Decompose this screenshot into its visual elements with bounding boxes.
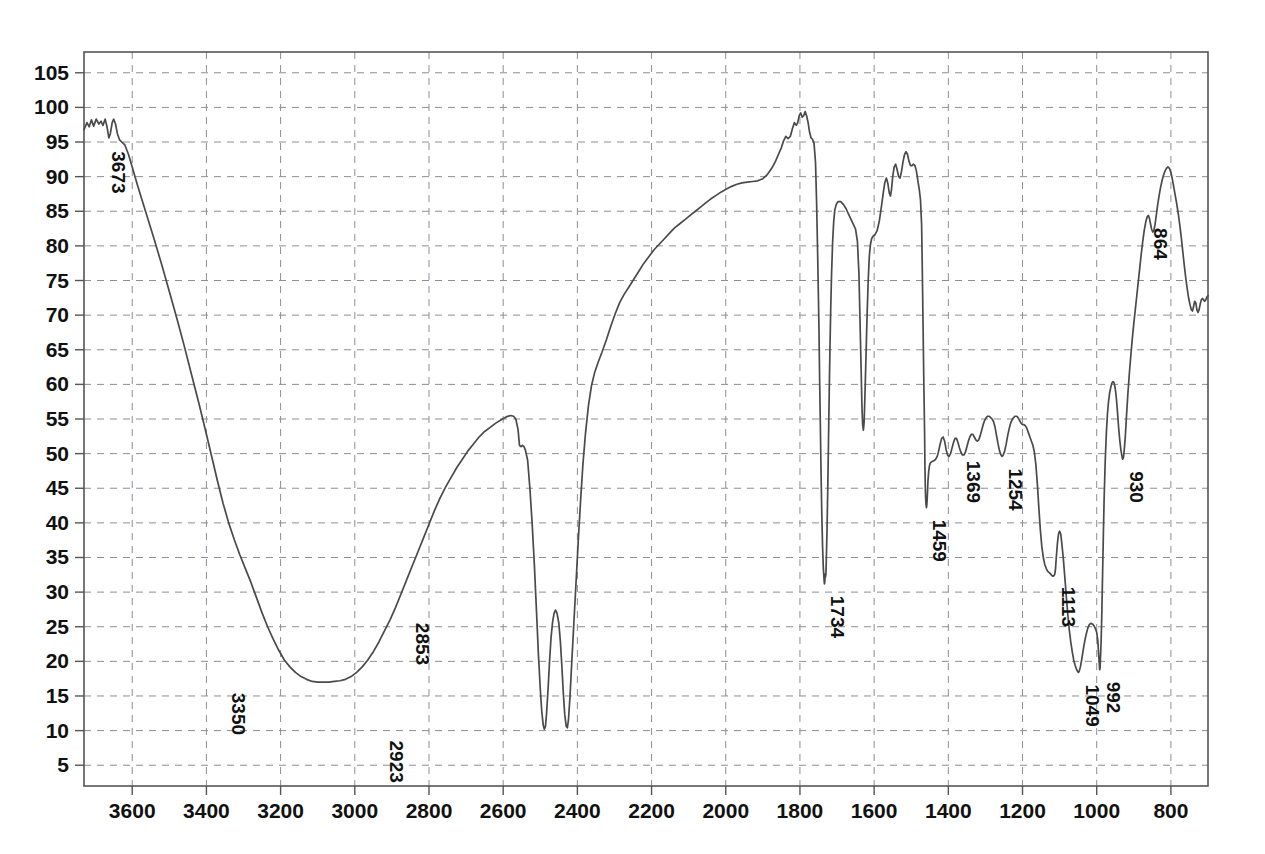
- y-tick-label: 15: [46, 684, 70, 707]
- x-tick-label: 3000: [331, 799, 378, 822]
- x-tick-label: 2200: [628, 799, 675, 822]
- peak-label: 2923: [386, 741, 407, 783]
- y-tick-label: 60: [46, 372, 69, 395]
- y-tick-label: 65: [46, 338, 70, 361]
- y-tick-label: 85: [46, 199, 70, 222]
- ir-spectrum-chart: 3600340032003000280026002400220020001800…: [0, 0, 1265, 854]
- y-tick-label: 55: [46, 407, 70, 430]
- spectrum-plot: 3600340032003000280026002400220020001800…: [0, 0, 1265, 854]
- peak-label: 1459: [929, 520, 950, 562]
- y-tick-label: 70: [46, 303, 69, 326]
- y-tick-label: 80: [46, 234, 69, 257]
- x-tick-label: 1800: [777, 799, 824, 822]
- peak-label: 3673: [108, 151, 129, 193]
- y-tick-label: 20: [46, 649, 69, 672]
- peak-label: 1369: [963, 461, 984, 503]
- x-tick-label: 2400: [554, 799, 601, 822]
- x-tick-label: 2600: [480, 799, 527, 822]
- peak-label: 1734: [827, 596, 848, 639]
- y-tick-label: 40: [46, 511, 69, 534]
- peak-label: 1049: [1082, 684, 1103, 726]
- peak-label: 2853: [412, 623, 433, 665]
- y-tick-label: 50: [46, 442, 69, 465]
- y-tick-label: 25: [46, 615, 70, 638]
- y-tick-label: 30: [46, 580, 69, 603]
- y-tick-label: 5: [57, 753, 69, 776]
- x-tick-label: 1400: [925, 799, 972, 822]
- peak-label: 864: [1150, 228, 1171, 260]
- y-tick-label: 10: [46, 719, 69, 742]
- x-tick-label: 800: [1153, 799, 1188, 822]
- x-tick-label: 2000: [702, 799, 749, 822]
- peak-label: 1113: [1058, 587, 1079, 627]
- x-tick-label: 3600: [109, 799, 156, 822]
- chart-background: [0, 0, 1265, 854]
- y-tick-label: 95: [46, 130, 70, 153]
- x-axis-tick-labels: 3600340032003000280026002400220020001800…: [109, 799, 1189, 822]
- peak-label: 1254: [1005, 468, 1026, 511]
- y-tick-label: 75: [46, 269, 70, 292]
- y-tick-label: 90: [46, 165, 69, 188]
- y-tick-label: 35: [46, 545, 70, 568]
- peak-label: 3350: [228, 693, 249, 735]
- x-tick-label: 1600: [851, 799, 898, 822]
- y-tick-label: 105: [34, 61, 69, 84]
- x-tick-label: 3400: [183, 799, 230, 822]
- y-tick-label: 45: [46, 476, 70, 499]
- x-tick-label: 3200: [257, 799, 304, 822]
- x-tick-label: 1000: [1073, 799, 1120, 822]
- x-tick-label: 1200: [999, 799, 1046, 822]
- peak-label: 992: [1103, 682, 1124, 714]
- y-tick-label: 100: [34, 95, 69, 118]
- peak-label: 930: [1126, 471, 1147, 503]
- x-tick-label: 2800: [406, 799, 453, 822]
